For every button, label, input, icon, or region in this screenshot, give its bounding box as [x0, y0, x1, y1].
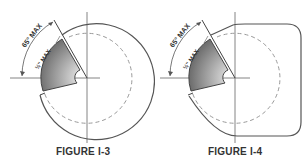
figure-i-4-diagram: 65° MAX ½" MAX: [155, 0, 307, 167]
bevel-shaded-region: [41, 39, 80, 91]
figure-i-3-diagram: 65° MAX ½" MAX: [0, 0, 155, 167]
angle-label: 65° MAX: [20, 22, 43, 49]
figure-i-3-caption: FIGURE I-3: [56, 146, 110, 157]
figure-i-4-caption: FIGURE I-4: [208, 146, 262, 157]
bevel-shaded-region: [189, 39, 228, 91]
angle-label: 65° MAX: [168, 22, 191, 49]
